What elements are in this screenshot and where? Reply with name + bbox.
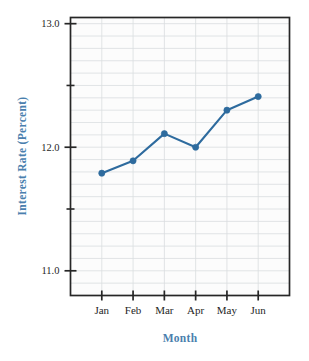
data-point bbox=[224, 107, 230, 113]
x-tick-label: May bbox=[217, 304, 238, 316]
data-point bbox=[130, 158, 136, 164]
x-axis-title: Month bbox=[163, 332, 198, 344]
y-tick-label: 11.0 bbox=[42, 265, 60, 276]
data-point bbox=[193, 144, 199, 150]
plot-background bbox=[71, 18, 290, 296]
x-tick-label: Apr bbox=[187, 304, 204, 316]
y-tick-label: 12.0 bbox=[41, 142, 59, 153]
y-axis-title: Interest Rate (Percent) bbox=[16, 97, 29, 216]
x-tick-label: Jun bbox=[251, 304, 267, 316]
data-point bbox=[255, 93, 261, 99]
x-axis-tick-labels: JanFebMarAprMayJun bbox=[94, 304, 266, 316]
chart-canvas: 13.012.011.0 JanFebMarAprMayJun Interest… bbox=[0, 0, 309, 361]
y-tick-label: 13.0 bbox=[41, 18, 59, 29]
x-tick-label: Jan bbox=[94, 304, 109, 316]
x-tick-label: Mar bbox=[155, 304, 174, 316]
x-tick-label: Feb bbox=[125, 304, 142, 316]
y-axis-tick-labels: 13.012.011.0 bbox=[41, 18, 59, 276]
data-point bbox=[161, 131, 167, 137]
line-chart: 13.012.011.0 JanFebMarAprMayJun Interest… bbox=[0, 0, 309, 361]
data-point bbox=[99, 170, 105, 176]
